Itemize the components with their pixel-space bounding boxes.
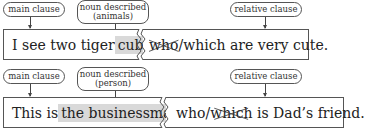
arrow-relative-clause: [265, 84, 266, 96]
label-relative-clause: relative clause: [230, 69, 302, 84]
cross-out-mark: [149, 37, 178, 53]
label-text: relative clause: [231, 72, 301, 81]
label-main-clause: main clause: [3, 69, 65, 84]
label-text: main clause: [4, 72, 64, 81]
label-noun-described: noun described (animals): [77, 0, 149, 24]
crossed-out-pronoun: who: [149, 37, 178, 53]
noun-described-text: the businessman: [58, 104, 183, 122]
label-text: (animals): [78, 12, 148, 21]
sentence-main-part: This is the businessman: [3, 97, 162, 128]
relative-clause-text: are very cute.: [226, 37, 329, 53]
crossed-out-pronoun: which: [210, 105, 252, 121]
main-clause-text: This is: [12, 105, 58, 121]
relative-clause-text: is Dad’s friend.: [253, 105, 365, 121]
cross-out-mark: [210, 105, 252, 121]
sentence-relative-part: who / which are very cute.: [143, 29, 309, 60]
label-noun-described: noun described (person): [77, 67, 149, 91]
label-text: relative clause: [231, 5, 301, 14]
label-main-clause: main clause: [3, 2, 65, 17]
label-text: (person): [78, 79, 148, 88]
sentence-main-part: I see two tiger cubs: [3, 29, 139, 60]
arrow-main-clause: [30, 84, 31, 96]
label-text: main clause: [4, 5, 64, 14]
arrow-main-clause: [30, 17, 31, 28]
sentence-relative-part: who / which is Dad’s friend.: [166, 97, 344, 128]
main-clause-text: I see two tiger: [12, 37, 115, 53]
pronoun-text: who: [176, 105, 205, 121]
arrow-relative-clause: [265, 17, 266, 28]
pronoun-text: which: [183, 37, 225, 53]
label-relative-clause: relative clause: [230, 2, 302, 17]
